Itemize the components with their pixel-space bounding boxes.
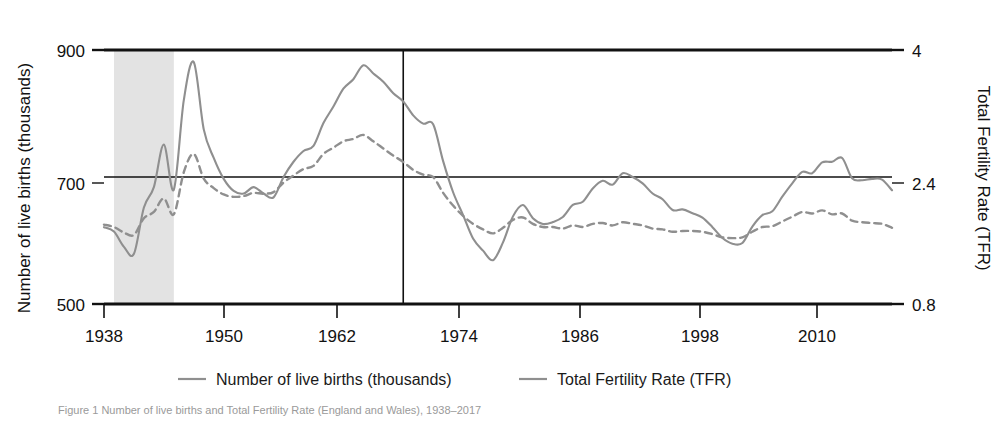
left-axis-tick-marks xyxy=(92,50,104,304)
left-axis-title: Number of live births (thousands) xyxy=(15,63,34,313)
chart-legend: Number of live births (thousands) Total … xyxy=(178,371,731,388)
x-axis-tick-label-1950: 1950 xyxy=(205,327,243,346)
left-axis-tick-label-900: 900 xyxy=(57,42,85,61)
x-axis-tick-label-1998: 1998 xyxy=(681,327,719,346)
births-tfr-line-chart: 900 700 500 4 2.4 0.8 193819501962197419… xyxy=(0,0,1008,421)
x-axis-tick-label-2010: 2010 xyxy=(798,327,836,346)
figure-container: 900 700 500 4 2.4 0.8 193819501962197419… xyxy=(0,0,1008,421)
legend-label-total-fertility-rate: Total Fertility Rate (TFR) xyxy=(557,371,731,388)
legend-label-number-of-live-births: Number of live births (thousands) xyxy=(216,371,452,388)
x-axis-tick-label-1986: 1986 xyxy=(561,327,599,346)
right-axis-tick-label-0-8: 0.8 xyxy=(912,296,936,315)
right-axis-tick-label-2-4: 2.4 xyxy=(912,175,936,194)
x-axis-tick-label-1962: 1962 xyxy=(318,327,356,346)
right-axis-title: Total Fertility Rate (TFR) xyxy=(974,85,993,270)
x-axis-tick-marks xyxy=(104,305,817,318)
left-axis-tick-label-700: 700 xyxy=(57,175,85,194)
figure-caption: Figure 1 Number of live births and Total… xyxy=(58,404,658,417)
x-axis-tick-labels: 1938195019621974198619982010 xyxy=(85,327,836,346)
x-axis-tick-label-1938: 1938 xyxy=(85,327,123,346)
x-axis-tick-label-1974: 1974 xyxy=(440,327,478,346)
right-axis-tick-label-4: 4 xyxy=(912,42,921,61)
left-axis-tick-label-500: 500 xyxy=(57,296,85,315)
right-axis-tick-marks xyxy=(892,50,904,304)
